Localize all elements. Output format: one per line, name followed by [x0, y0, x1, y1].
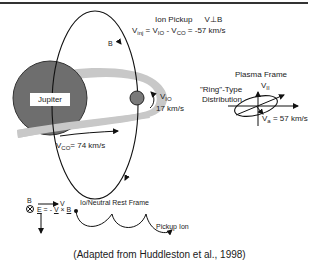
eq-cross: × — [59, 206, 67, 213]
vparallel-label: VII — [261, 82, 270, 91]
ion-pickup-title-text: Ion Pickup — [155, 15, 192, 24]
vco-sub: CO — [61, 145, 70, 151]
io-v-sub: IO — [165, 96, 171, 102]
va-label: Va = 57 km/s — [262, 115, 308, 124]
injection-velocity-equation: Vinj = VIO - VCO = -57 km/s — [132, 27, 225, 36]
io-velocity-arrow-icon — [150, 92, 154, 108]
rest-frame-b-label: B — [27, 197, 32, 204]
field-arrow-lower-icon — [125, 176, 127, 180]
eq-result: = -57 km/s — [186, 26, 226, 35]
eq-minus: - V — [164, 26, 176, 35]
figure-caption: (Adapted from Huddleston et al., 1998) — [0, 249, 319, 260]
diagram-canvas — [0, 0, 319, 272]
io-velocity-label: VIO — [160, 93, 172, 102]
eq-b-vec: B — [67, 206, 72, 213]
field-line-label: B — [108, 40, 113, 47]
plasma-frame-title: Plasma Frame — [235, 71, 287, 79]
eq-rest: = V — [146, 26, 158, 35]
ion-pickup-condition: V⊥B — [205, 15, 223, 24]
io-velocity-value: 17 km/s — [156, 105, 184, 113]
corotation-label: VCO= 74 km/s — [56, 142, 105, 151]
va-arrow — [256, 106, 263, 114]
e-field-equation: E = - V × B — [37, 206, 71, 213]
io-moon — [130, 91, 144, 105]
rest-frame-title: Io/Neutral Rest Frame — [80, 199, 149, 206]
vco-rest: = 74 km/s — [70, 141, 105, 150]
ring-diagonal-arrow — [236, 95, 284, 115]
eq-sub-inj: inj — [137, 30, 143, 36]
pickup-ion-label: Pickup Ion — [156, 223, 189, 230]
eq-mid: = - — [42, 206, 54, 213]
vpar-sub: II — [266, 85, 269, 91]
va-value: = 57 km/s — [271, 114, 308, 123]
b-arrow-icon — [118, 40, 121, 44]
jupiter-label: Jupiter — [30, 93, 70, 106]
corotation-arrow-icon — [60, 131, 118, 136]
ring-type-label: "Ring"-Type — [200, 86, 242, 94]
distribution-label: Distribution — [202, 96, 242, 104]
b-cross-icon — [28, 207, 33, 212]
ion-pickup-title: Ion Pickup V⊥B — [155, 16, 222, 24]
eq-sub-co: CO — [177, 30, 186, 36]
